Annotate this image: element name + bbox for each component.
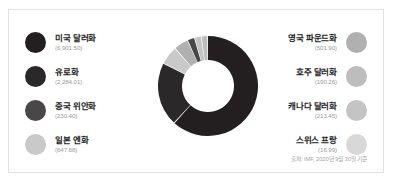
source-note: 출처: IMF, 2020년 9월 30일 기준	[291, 154, 367, 163]
legend-swatch-icon	[25, 100, 46, 121]
legend-value: (6,901.50)	[55, 45, 96, 51]
legend-text: 미국 달러화(6,901.50)	[55, 34, 96, 51]
legend-value: (647.68)	[55, 147, 88, 153]
legend-swatch-icon	[25, 66, 46, 87]
legend-swatch-icon	[346, 134, 367, 155]
legend-value: (190.26)	[315, 79, 337, 85]
legend-value: (230.40)	[55, 113, 96, 119]
legend-item[interactable]: 일본 엔화(647.68)	[25, 129, 155, 160]
legend-text: 중국 위안화(230.40)	[55, 102, 96, 119]
legend-swatch-icon	[346, 66, 367, 87]
legend-swatch-icon	[25, 134, 46, 155]
legend-text: 일본 엔화(647.68)	[55, 136, 88, 153]
legend-item[interactable]: 캐나다 달러화(213.45)	[237, 95, 367, 126]
chart-card: 미국 달러화(6,901.50)유로화(2,284.01)중국 위안화(230.…	[8, 9, 384, 173]
legend-value: (213.45)	[315, 113, 337, 119]
legend-label: 유로화	[55, 68, 82, 77]
legend-label: 캐나다 달러화	[288, 102, 337, 111]
legend-value: (2,284.01)	[55, 79, 82, 85]
legend-text: 캐나다 달러화(213.45)	[288, 102, 337, 119]
legend-left: 미국 달러화(6,901.50)유로화(2,284.01)중국 위안화(230.…	[25, 27, 155, 163]
legend-item[interactable]: 호주 달러화(190.26)	[237, 61, 367, 92]
legend-swatch-icon	[25, 32, 46, 53]
legend-label: 일본 엔화	[55, 136, 88, 145]
legend-label: 중국 위안화	[55, 102, 96, 111]
legend-value: (16.99)	[318, 147, 337, 153]
legend-item[interactable]: 유로화(2,284.01)	[25, 61, 155, 92]
legend-label: 미국 달러화	[55, 34, 96, 43]
legend-right: 영국 파운드화(501.90)호주 달러화(190.26)캐나다 달러화(213…	[237, 27, 367, 163]
legend-text: 스위스 프랑(16.99)	[296, 136, 337, 153]
legend-text: 호주 달러화(190.26)	[296, 68, 337, 85]
legend-swatch-icon	[346, 32, 367, 53]
legend-label: 영국 파운드화	[288, 34, 337, 43]
legend-label: 호주 달러화	[296, 68, 337, 77]
legend-item[interactable]: 중국 위안화(230.40)	[25, 95, 155, 126]
legend-item[interactable]: 영국 파운드화(501.90)	[237, 27, 367, 58]
legend-label: 스위스 프랑	[296, 136, 337, 145]
legend-item[interactable]: 미국 달러화(6,901.50)	[25, 27, 155, 58]
legend-text: 유로화(2,284.01)	[55, 68, 82, 85]
legend-text: 영국 파운드화(501.90)	[288, 34, 337, 51]
legend-value: (501.90)	[315, 45, 337, 51]
legend-swatch-icon	[346, 100, 367, 121]
